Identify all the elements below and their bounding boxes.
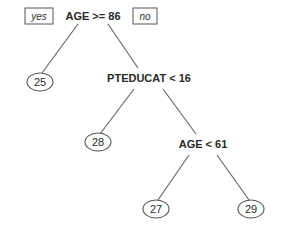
leaf-27: 27 (150, 203, 162, 215)
edge-root-to-25 (42, 24, 78, 73)
split-age61-label: AGE < 61 (179, 138, 228, 150)
tree-svg: yes AGE >= 86 no 25 PTEDUCAT < 16 28 AGE… (0, 0, 282, 226)
edge-root-to-pteducat (108, 24, 138, 68)
edge-age61-to-27 (158, 155, 189, 200)
decision-tree-diagram: yes AGE >= 86 no 25 PTEDUCAT < 16 28 AGE… (0, 0, 282, 226)
edge-pteducat-to-age61 (163, 89, 196, 134)
yes-tag: yes (30, 11, 47, 22)
leaf-28: 28 (92, 136, 104, 148)
edge-pteducat-to-28 (100, 89, 134, 134)
leaf-29: 29 (245, 203, 257, 215)
edge-age61-to-29 (217, 155, 249, 200)
leaf-25: 25 (34, 76, 46, 88)
root-split-label: AGE >= 86 (65, 10, 120, 22)
split-pteducat-label: PTEDUCAT < 16 (107, 72, 191, 84)
no-tag: no (139, 11, 151, 22)
